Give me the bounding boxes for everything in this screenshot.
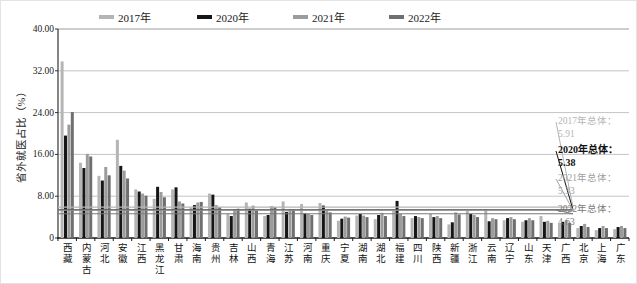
bar-2020年-青海 bbox=[267, 215, 270, 238]
annotation-value: 5.91 bbox=[558, 128, 636, 141]
bar-2017年-山东 bbox=[521, 222, 524, 238]
bar-2022年-重庆 bbox=[329, 212, 332, 238]
bar-2021年-辽宁 bbox=[509, 217, 512, 238]
x-category-label-陕西: 陕西 bbox=[430, 243, 440, 265]
bar-2020年-陕西 bbox=[432, 217, 435, 238]
legend-label: 2020年 bbox=[216, 9, 249, 25]
bar-2021年-河北 bbox=[104, 167, 107, 238]
x-category-label-山东: 山东 bbox=[522, 243, 532, 265]
bar-2020年-江苏 bbox=[285, 212, 288, 238]
bar-2022年-新疆 bbox=[458, 214, 461, 238]
x-category-label-山西: 山西 bbox=[246, 243, 256, 265]
x-category-label-吉林: 吉林 bbox=[227, 243, 237, 265]
bar-2017年-福建 bbox=[392, 211, 395, 238]
bar-2022年-吉林 bbox=[237, 209, 240, 238]
annotation-label: 2021年总体： bbox=[558, 173, 617, 183]
legend-label: 2021年 bbox=[312, 9, 345, 25]
bar-2021年-河南 bbox=[307, 214, 310, 238]
bar-2020年-河南 bbox=[303, 213, 306, 238]
bar-2022年-湖南 bbox=[366, 217, 369, 238]
bar-2017年-四川 bbox=[411, 218, 414, 238]
y-tick-label: 40.00 bbox=[20, 24, 54, 34]
bar-2022年-北京 bbox=[587, 227, 590, 238]
bar-2020年-西藏 bbox=[64, 136, 67, 238]
bar-2020年-甘肃 bbox=[175, 187, 178, 238]
bar-2022年-江西 bbox=[144, 196, 147, 238]
bar-2021年-云南 bbox=[491, 218, 494, 238]
bar-2020年-山东 bbox=[524, 220, 527, 238]
bar-2020年-云南 bbox=[488, 221, 491, 238]
bar-2022年-贵州 bbox=[218, 207, 221, 238]
overall-annotation-2020年: 2020年总体：5.38 bbox=[558, 144, 636, 169]
bar-2022年-内蒙古 bbox=[89, 156, 92, 238]
x-category-label-云南: 云南 bbox=[485, 243, 495, 265]
bar-2022年-山东 bbox=[531, 220, 534, 238]
bar-2021年-内蒙古 bbox=[86, 154, 89, 238]
legend-label: 2017年 bbox=[118, 9, 151, 25]
bar-2017年-上海 bbox=[595, 230, 598, 238]
bar-2021年-湖南 bbox=[362, 216, 365, 238]
x-category-label-湖北: 湖北 bbox=[375, 243, 385, 265]
annotation-label: 2020年总体： bbox=[558, 144, 618, 155]
bar-2017年-北京 bbox=[576, 228, 579, 238]
x-category-label-贵州: 贵州 bbox=[209, 243, 219, 265]
bar-2022年-甘肃 bbox=[181, 204, 184, 238]
y-tick-label: 24.00 bbox=[20, 108, 54, 118]
bar-2020年-宁夏 bbox=[340, 219, 343, 238]
bar-2021年-江西 bbox=[141, 194, 144, 238]
bar-2022年-山西 bbox=[255, 210, 258, 238]
x-category-label-广东: 广东 bbox=[614, 243, 624, 265]
annotation-value: 5.38 bbox=[558, 157, 636, 170]
bar-2022年-浙江 bbox=[476, 217, 479, 238]
bar-2022年-福建 bbox=[402, 216, 405, 238]
bar-2022年-天津 bbox=[550, 223, 553, 238]
y-tick-label: 0 bbox=[20, 233, 54, 243]
bar-2022年-黑龙江 bbox=[163, 197, 166, 238]
bar-2017年-青海 bbox=[263, 216, 266, 238]
x-category-label-安徽: 安徽 bbox=[117, 243, 127, 265]
x-category-label-湖南: 湖南 bbox=[356, 243, 366, 265]
bar-2020年-贵州 bbox=[211, 195, 214, 238]
bar-2017年-安徽 bbox=[116, 140, 119, 238]
annotation-value: 4.63 bbox=[558, 216, 636, 229]
bar-2017年-湖南 bbox=[355, 216, 358, 238]
bar-2021年-重庆 bbox=[325, 210, 328, 238]
bar-2022年-云南 bbox=[494, 219, 497, 238]
overall-annotation-2021年: 2021年总体：5.33 bbox=[558, 172, 636, 197]
legend-item-2017年: 2017年 bbox=[99, 10, 151, 24]
x-category-label-江苏: 江苏 bbox=[283, 243, 293, 265]
annotation-label: 2017年总体： bbox=[558, 116, 617, 126]
bar-2020年-上海 bbox=[598, 228, 601, 238]
bar-2022年-安徽 bbox=[126, 178, 129, 238]
bar-2022年-河南 bbox=[310, 215, 313, 238]
x-category-label-西藏: 西藏 bbox=[62, 243, 72, 265]
bar-2021年-安徽 bbox=[123, 171, 126, 238]
x-category-label-新疆: 新疆 bbox=[449, 243, 459, 265]
bar-2017年-山西 bbox=[245, 202, 248, 238]
annotation-label: 2022年总体： bbox=[558, 204, 617, 214]
bar-2020年-安徽 bbox=[119, 166, 122, 238]
plot-area bbox=[1, 1, 637, 284]
bar-2017年-吉林 bbox=[226, 214, 229, 238]
bar-2022年-陕西 bbox=[439, 218, 442, 238]
x-category-label-甘肃: 甘肃 bbox=[172, 243, 182, 265]
bar-2021年-青海 bbox=[270, 206, 273, 238]
bar-2020年-湖北 bbox=[377, 215, 380, 238]
bar-2022年-广东 bbox=[623, 228, 626, 238]
bar-2021年-宁夏 bbox=[344, 217, 347, 238]
legend-label: 2022年 bbox=[408, 9, 441, 25]
bar-2017年-河南 bbox=[300, 204, 303, 238]
bar-2020年-江西 bbox=[138, 192, 141, 239]
bar-2020年-天津 bbox=[543, 222, 546, 238]
bar-2017年-海南 bbox=[190, 208, 193, 238]
bar-2020年-新疆 bbox=[451, 222, 454, 238]
bar-2017年-广东 bbox=[613, 229, 616, 238]
x-category-label-辽宁: 辽宁 bbox=[504, 243, 514, 265]
bar-2020年-吉林 bbox=[230, 216, 233, 238]
bar-2017年-内蒙古 bbox=[79, 163, 82, 238]
legend-item-2021年: 2021年 bbox=[293, 10, 345, 24]
x-category-label-江西: 江西 bbox=[135, 243, 145, 265]
x-category-label-北京: 北京 bbox=[577, 243, 587, 265]
x-category-label-宁夏: 宁夏 bbox=[338, 243, 348, 265]
legend-marker-icon bbox=[99, 15, 114, 19]
